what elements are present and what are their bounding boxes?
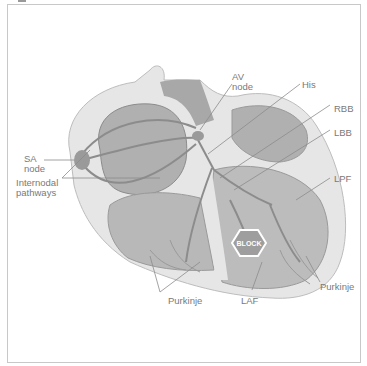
label-purkinje-right: Purkinje — [320, 282, 354, 292]
label-sa-node: SA node — [24, 154, 45, 174]
label-lpf: LPF — [334, 174, 351, 184]
label-lbb: LBB — [334, 128, 352, 138]
right-atrium — [99, 104, 187, 195]
block-badge-text: BLOCK — [237, 240, 262, 247]
label-rbb: RBB — [334, 104, 354, 114]
label-his: His — [302, 80, 316, 90]
label-av-node: AV node — [232, 72, 253, 92]
label-internodal-pathways: Internodal pathways — [16, 178, 58, 198]
label-purkinje-left: Purkinje — [168, 296, 202, 306]
label-laf: LAF — [241, 296, 258, 306]
sa-node — [74, 150, 90, 170]
av-node — [192, 131, 204, 141]
right-ventricle — [108, 193, 214, 271]
